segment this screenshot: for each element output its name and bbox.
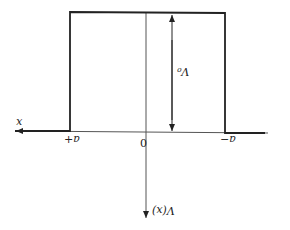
well-outline [15, 12, 265, 133]
origin-label: 0 [140, 137, 147, 148]
potential-well-diagram [0, 0, 290, 230]
right-edge-label: a− [220, 134, 236, 145]
height-label: V₀ [177, 66, 189, 77]
x-axis-label: x [16, 117, 22, 128]
y-axis-label: V(x) [152, 205, 175, 216]
left-edge-label: a+ [64, 134, 80, 145]
